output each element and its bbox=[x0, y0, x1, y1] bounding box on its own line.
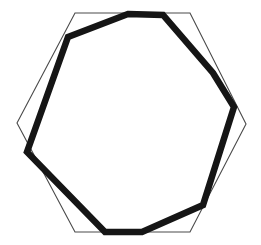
figure-canvas bbox=[0, 0, 261, 245]
polygon-diagram bbox=[0, 0, 261, 245]
